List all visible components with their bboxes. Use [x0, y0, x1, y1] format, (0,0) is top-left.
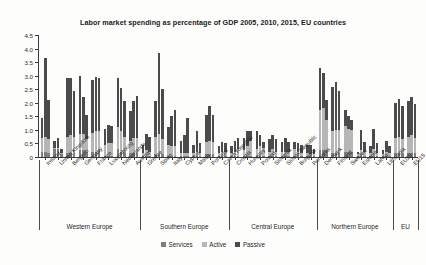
region-separator — [39, 160, 40, 230]
segment-passive — [186, 118, 189, 153]
country-bar-group[interactable] — [64, 35, 77, 157]
country-bar-group[interactable] — [367, 35, 380, 157]
country-bar-group[interactable] — [405, 35, 418, 157]
legend-item-services[interactable]: Services — [161, 241, 193, 248]
country-bar-group[interactable] — [292, 35, 305, 157]
bar-2015[interactable] — [174, 110, 177, 157]
y-tick-label: 3.5 — [24, 59, 33, 66]
bar-2005[interactable] — [407, 101, 410, 157]
segment-active — [208, 141, 211, 155]
bar-2005[interactable] — [331, 87, 334, 157]
bar-2005[interactable] — [344, 110, 347, 157]
country-bar-group[interactable] — [102, 35, 115, 157]
bar-2005[interactable] — [394, 103, 397, 157]
segment-passive — [174, 110, 177, 147]
y-tick — [35, 157, 38, 158]
region-label: Northern Europe — [331, 223, 378, 230]
y-tick — [35, 116, 38, 117]
segment-passive — [407, 101, 410, 136]
segment-passive — [335, 82, 338, 129]
bar-2010[interactable] — [183, 135, 186, 157]
segment-active — [344, 126, 347, 152]
bar-2010[interactable] — [44, 58, 47, 157]
segment-active — [44, 137, 47, 152]
segment-active — [117, 127, 120, 149]
bar-2005[interactable] — [66, 78, 69, 157]
country-bar-group[interactable] — [178, 35, 191, 157]
legend-label: Services — [169, 241, 193, 248]
country-bar-group[interactable] — [254, 35, 267, 157]
bar-2005[interactable] — [91, 80, 94, 157]
bar-2005[interactable] — [205, 115, 208, 157]
bar-2015[interactable] — [161, 89, 164, 157]
country-bar-group[interactable] — [330, 35, 343, 157]
segment-passive — [57, 138, 60, 147]
y-tick-label: 2.0 — [24, 99, 33, 106]
bar-2010[interactable] — [170, 116, 173, 157]
country-bar-group[interactable] — [115, 35, 128, 157]
region-separator — [229, 160, 230, 230]
country-bar-group[interactable] — [165, 35, 178, 157]
country-bar-group[interactable] — [127, 35, 140, 157]
segment-passive — [95, 77, 98, 131]
country-bar-group[interactable] — [380, 35, 393, 157]
country-bar-group[interactable] — [216, 35, 229, 157]
segment-passive — [293, 142, 296, 149]
segment-passive — [344, 110, 347, 126]
country-bar-group[interactable] — [140, 35, 153, 157]
legend-label: Active — [209, 241, 226, 248]
country-bar-group[interactable] — [191, 35, 204, 157]
bar-2005[interactable] — [41, 118, 44, 157]
country-bar-group[interactable] — [279, 35, 292, 157]
segment-passive — [212, 115, 215, 142]
bar-2010[interactable] — [208, 106, 211, 157]
y-tick-label: 4.0 — [24, 45, 33, 52]
bar-2005[interactable] — [319, 68, 322, 157]
bar-2010[interactable] — [95, 77, 98, 157]
country-bar-group[interactable] — [393, 35, 406, 157]
segment-passive — [385, 141, 388, 152]
country-bar-group[interactable] — [90, 35, 103, 157]
country-bar-group[interactable] — [229, 35, 242, 157]
legend-swatch-icon — [202, 242, 207, 247]
legend-item-active[interactable]: Active — [202, 241, 227, 248]
segment-passive — [331, 87, 334, 132]
bar-2010[interactable] — [69, 78, 72, 157]
country-bar-group[interactable] — [39, 35, 52, 157]
segment-passive — [91, 80, 94, 133]
bar-2015[interactable] — [414, 104, 417, 157]
bar-2010[interactable] — [410, 97, 413, 157]
country-bar-group[interactable] — [52, 35, 65, 157]
bar-2015[interactable] — [47, 100, 50, 157]
segment-passive — [129, 111, 132, 141]
segment-passive — [53, 141, 56, 148]
segment-active — [41, 138, 44, 152]
segment-active — [47, 139, 50, 153]
segment-services — [41, 152, 44, 157]
segment-passive — [322, 73, 325, 108]
bar-2015[interactable] — [186, 118, 189, 157]
segment-passive — [145, 134, 148, 150]
segment-passive — [394, 103, 397, 138]
country-bar-group[interactable] — [317, 35, 330, 157]
bar-2015[interactable] — [212, 115, 215, 157]
segment-passive — [98, 78, 101, 131]
bar-2010[interactable] — [322, 73, 325, 157]
bar-2005[interactable] — [117, 78, 120, 157]
bar-2010[interactable] — [158, 53, 161, 157]
legend-swatch-icon — [161, 242, 166, 247]
segment-passive — [167, 127, 170, 145]
country-bar-group[interactable] — [153, 35, 166, 157]
country-bar-group[interactable] — [342, 35, 355, 157]
country-bar-group[interactable] — [266, 35, 279, 157]
segment-passive — [410, 97, 413, 135]
segment-active — [414, 138, 417, 153]
bar-2005[interactable] — [154, 101, 157, 157]
legend-item-passive[interactable]: Passive — [235, 241, 265, 248]
chart-title: Labor market spending as percentage of G… — [0, 18, 426, 27]
bar-2010[interactable] — [335, 82, 338, 157]
country-bar-group[interactable] — [203, 35, 216, 157]
segment-active — [91, 133, 94, 152]
country-bar-group[interactable] — [355, 35, 368, 157]
segment-passive — [259, 135, 262, 146]
